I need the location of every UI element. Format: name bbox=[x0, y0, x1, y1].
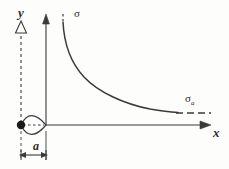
y-axis-arrowhead-icon bbox=[43, 14, 50, 24]
x-axis-label: x bbox=[213, 126, 220, 139]
stress-curve bbox=[63, 14, 178, 113]
hollow-arrowhead-icon bbox=[16, 21, 27, 33]
dimension-arrowhead-right-icon bbox=[41, 152, 48, 158]
x-axis bbox=[46, 121, 211, 129]
far-field-stress-subscript: a bbox=[191, 99, 195, 107]
far-field-stress-label: σa bbox=[185, 93, 194, 107]
crack-length-label: a bbox=[33, 140, 39, 152]
crack-mouth-reference-line bbox=[16, 21, 27, 125]
y-axis bbox=[43, 14, 50, 125]
crack-mouth-dot-icon bbox=[17, 121, 25, 129]
y-axis-label: y bbox=[18, 6, 24, 19]
dimension-arrowhead-left-icon bbox=[19, 152, 26, 158]
x-axis-arrowhead-icon bbox=[200, 121, 211, 129]
stress-distribution-figure: y x a σ σa bbox=[0, 0, 229, 169]
stress-curve-label: σ bbox=[74, 8, 80, 19]
